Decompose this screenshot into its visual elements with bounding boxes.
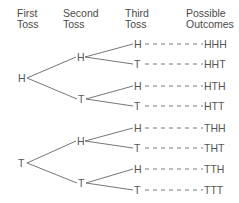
node-second-toss-t: T	[78, 177, 85, 189]
node-third-toss-h: H	[134, 122, 142, 134]
node-second-toss-h: H	[77, 135, 85, 147]
node-third-toss-t: T	[134, 184, 141, 196]
outcome-ttt: TTT	[204, 184, 224, 196]
node-third-toss-t: T	[134, 58, 141, 70]
branch-second-to-third	[86, 183, 133, 190]
node-third-toss-h: H	[134, 163, 142, 175]
node-second-toss-h: H	[77, 51, 85, 63]
probability-tree-diagram: HTHTHTHHHHTHHTHHTHTHTTHTHHTTHTHTTHTTTT	[0, 0, 239, 203]
node-second-toss-t: T	[78, 93, 85, 105]
node-first-toss-t: T	[18, 157, 25, 169]
node-third-toss-h: H	[134, 80, 142, 92]
branch-first-to-second	[27, 57, 76, 78]
outcome-hht: HHT	[204, 58, 226, 70]
branch-second-to-third	[85, 128, 133, 141]
branch-second-to-third	[85, 141, 133, 148]
branch-second-to-third	[86, 169, 133, 183]
outcome-thh: THH	[204, 122, 226, 134]
branch-second-to-third	[85, 57, 133, 64]
branch-second-to-third	[85, 44, 133, 57]
branch-first-to-second	[27, 78, 77, 99]
node-first-toss-h: H	[18, 72, 26, 84]
node-third-toss-h: H	[134, 38, 142, 50]
outcome-tht: THT	[204, 142, 225, 154]
branch-second-to-third	[86, 86, 133, 99]
node-third-toss-t: T	[134, 142, 141, 154]
branch-second-to-third	[86, 99, 133, 106]
node-third-toss-t: T	[134, 100, 141, 112]
outcome-tth: TTH	[204, 163, 224, 175]
branch-first-to-second	[27, 163, 77, 183]
outcome-hhh: HHH	[204, 38, 227, 50]
outcome-hth: HTH	[204, 80, 226, 92]
branch-first-to-second	[27, 141, 76, 163]
outcome-htt: HTT	[204, 100, 225, 112]
